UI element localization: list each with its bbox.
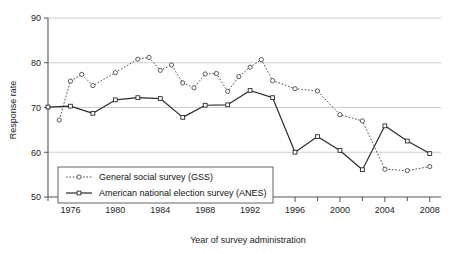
- anes-data-point: [383, 124, 387, 128]
- gss-data-point: [270, 79, 274, 83]
- gss-data-point: [338, 113, 342, 117]
- anes-data-point: [338, 149, 342, 153]
- gss-data-point: [214, 71, 218, 75]
- gss-data-point: [68, 79, 72, 83]
- anes-data-point: [405, 139, 409, 143]
- gss-data-point: [259, 58, 263, 62]
- y-axis-title: Response rate: [8, 81, 18, 140]
- anes-data-point: [136, 96, 140, 100]
- legend-marker-square: [77, 191, 81, 195]
- gss-data-point: [360, 119, 364, 123]
- anes-data-point: [361, 168, 365, 172]
- gss-data-point: [113, 71, 117, 75]
- gss-data-point: [428, 164, 432, 168]
- gss-data-point: [237, 75, 241, 79]
- gss-data-point: [147, 55, 151, 59]
- x-tick-label: 2000: [330, 205, 350, 215]
- anes-data-point: [113, 98, 117, 102]
- gss-data-point: [169, 63, 173, 67]
- y-tick-label: 90: [31, 13, 41, 23]
- gss-data-point: [248, 65, 252, 69]
- gss-data-point: [192, 86, 196, 90]
- x-tick-label: 2008: [420, 205, 440, 215]
- x-tick-label: 2004: [375, 205, 395, 215]
- gss-data-point: [226, 89, 230, 93]
- gss-data-point: [405, 169, 409, 173]
- anes-data-point: [248, 89, 252, 93]
- x-tick-label: 1984: [150, 205, 170, 215]
- gss-data-markers: [57, 55, 432, 172]
- x-tick-label: 1980: [105, 205, 125, 215]
- gss-data-point: [136, 57, 140, 61]
- anes-series-line: [48, 91, 430, 170]
- anes-data-point: [428, 152, 432, 156]
- gss-data-point: [181, 81, 185, 85]
- x-tick-label: 1988: [195, 205, 215, 215]
- gss-data-point: [158, 68, 162, 72]
- chart-figure: 5060708090 19761980198419881992199620002…: [0, 0, 451, 254]
- anes-data-point: [226, 103, 230, 107]
- x-tick-label: 1976: [60, 205, 80, 215]
- anes-data-point: [271, 96, 275, 100]
- x-tick-label: 1992: [240, 205, 260, 215]
- x-axis-title: Year of survey administration: [190, 235, 306, 245]
- anes-data-point: [293, 150, 297, 154]
- gss-data-point: [203, 72, 207, 76]
- gss-data-point: [91, 83, 95, 87]
- y-tick-label: 60: [31, 148, 41, 158]
- gss-data-point: [383, 167, 387, 171]
- anes-data-point: [316, 135, 320, 139]
- anes-data-point: [69, 104, 73, 108]
- y-tick-label: 70: [31, 103, 41, 113]
- y-tick-label: 50: [31, 192, 41, 202]
- anes-data-point: [203, 103, 207, 107]
- gss-data-point: [315, 89, 319, 93]
- legend-label: General social survey (GSS): [99, 172, 213, 182]
- legend-marker-circle: [77, 175, 81, 179]
- x-tick-label: 1996: [285, 205, 305, 215]
- anes-data-point: [158, 97, 162, 101]
- anes-data-point: [46, 105, 50, 109]
- gss-data-point: [57, 118, 61, 122]
- anes-data-point: [181, 115, 185, 119]
- anes-data-point: [91, 111, 95, 115]
- anes-data-markers: [46, 89, 432, 172]
- gss-data-point: [293, 87, 297, 91]
- y-tick-label: 80: [31, 58, 41, 68]
- legend-label: American national election survey (ANES): [99, 188, 267, 198]
- y-axis-ticks: 5060708090: [31, 13, 48, 202]
- chart-legend: General social survey (GSS)American nati…: [58, 167, 273, 203]
- response-rate-line-chart: 5060708090 19761980198419881992199620002…: [0, 0, 451, 254]
- gss-data-point: [80, 72, 84, 76]
